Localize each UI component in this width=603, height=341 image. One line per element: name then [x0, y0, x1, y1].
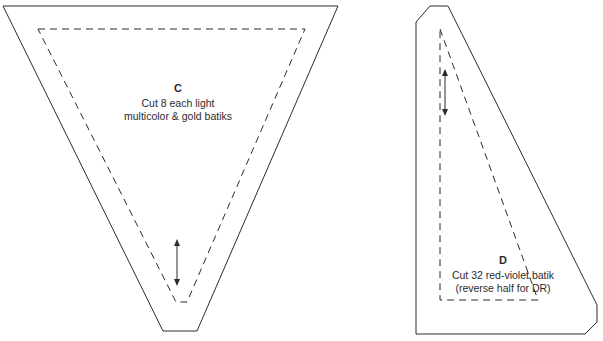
piece-c-letter: C: [78, 82, 278, 95]
piece-d-letter: D: [413, 254, 593, 267]
piece-c-cut-outline: [3, 6, 338, 331]
piece-d-label: D Cut 32 red-violet batik (reverse half …: [413, 254, 593, 295]
piece-d-note-line-2: (reverse half for DR): [413, 282, 593, 295]
piece-c-group: [3, 6, 338, 331]
piece-c-note-line-2: multicolor & gold batiks: [78, 110, 278, 123]
piece-c-label: C Cut 8 each light multicolor & gold bat…: [78, 82, 278, 123]
pattern-sheet: C Cut 8 each light multicolor & gold bat…: [0, 0, 603, 341]
piece-d-note-line-1: Cut 32 red-violet batik: [413, 269, 593, 282]
piece-c-note-line-1: Cut 8 each light: [78, 97, 278, 110]
